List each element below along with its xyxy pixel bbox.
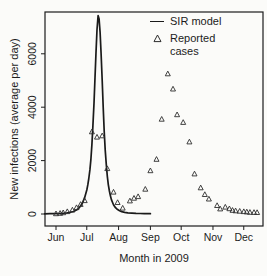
triangle-marker-icon <box>149 34 165 43</box>
reported-case-marker <box>154 157 159 162</box>
x-tick-label: Sep <box>141 231 160 243</box>
chart-canvas: JunJulAugSepOctNovDec0200040006000 <box>0 0 267 276</box>
y-tick-label: 0 <box>26 211 38 217</box>
reported-case-marker <box>148 168 153 173</box>
reported-case-marker <box>187 139 192 144</box>
legend-label-reported: Reported <box>170 32 215 45</box>
reported-case-marker <box>111 189 116 194</box>
reported-case-marker <box>95 134 100 139</box>
reported-case-marker <box>159 117 164 122</box>
reported-cases-points <box>54 71 260 216</box>
x-tick-label: Jun <box>48 231 65 243</box>
reported-case-marker <box>202 192 207 197</box>
x-tick-label: Nov <box>204 231 223 243</box>
x-axis-title: Month in 2009 <box>119 252 189 264</box>
reported-case-marker <box>198 185 203 190</box>
reported-case-marker <box>115 200 120 205</box>
reported-case-marker <box>255 210 260 215</box>
x-tick-label: Aug <box>109 231 128 243</box>
legend-row-reported-cases: Reported <box>149 32 221 45</box>
legend: SIR model Reported cases <box>149 15 221 58</box>
reported-case-marker <box>218 206 223 211</box>
reported-case-marker <box>223 204 228 209</box>
reported-case-marker <box>206 196 211 201</box>
y-tick-label: 4000 <box>26 95 38 119</box>
reported-case-marker <box>136 194 141 199</box>
reported-case-marker <box>181 120 186 125</box>
legend-label-cases: cases <box>170 45 221 58</box>
y-axis-title: New infections (average per day) <box>8 38 20 199</box>
y-tick-label: 6000 <box>26 42 38 66</box>
sir-model-curve <box>45 16 151 214</box>
reported-case-marker <box>82 198 87 203</box>
x-tick-label: Oct <box>173 231 189 243</box>
reported-case-marker <box>143 187 148 192</box>
x-tick-label: Jul <box>80 231 93 243</box>
x-tick-label: Dec <box>234 231 253 243</box>
reported-case-marker <box>192 171 197 176</box>
sir-model-figure: JunJulAugSepOctNovDec0200040006000 New i… <box>0 0 267 276</box>
reported-case-marker <box>171 86 176 91</box>
y-tick-label: 2000 <box>26 149 38 173</box>
reported-case-marker <box>120 205 125 210</box>
line-sample-icon <box>149 21 165 22</box>
reported-case-marker <box>175 112 180 117</box>
legend-label-sir-model: SIR model <box>170 15 221 28</box>
legend-row-sir-model: SIR model <box>149 15 221 28</box>
reported-case-marker <box>165 71 170 76</box>
reported-case-marker <box>215 203 220 208</box>
